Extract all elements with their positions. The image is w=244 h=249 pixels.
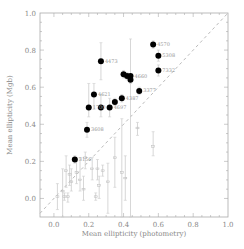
y-axis-title: Mean ellipticity (Mgb) <box>6 75 14 155</box>
y-tick-label: 0.0 <box>25 195 36 203</box>
data-point <box>72 157 78 163</box>
x-tick-label: 0.0 <box>48 221 59 229</box>
y-tick-label: 1.0 <box>25 10 36 18</box>
y-tick-label: 0.4 <box>25 121 37 129</box>
axis-ticks <box>40 13 228 217</box>
point-label: 4697 <box>114 104 127 110</box>
data-point <box>84 127 90 133</box>
x-tick-label: 0.2 <box>83 221 94 229</box>
x-tick-label: 0.8 <box>188 221 199 229</box>
point-label: 7332 <box>162 67 175 73</box>
point-label: 4473 <box>105 58 118 64</box>
one-to-one-reference-line <box>40 13 228 213</box>
point-labels: 4473457053087332337746604621170046974387… <box>79 41 175 162</box>
x-tick-label: 0.4 <box>118 221 130 229</box>
data-point <box>107 105 113 111</box>
point-label: 3156 <box>79 156 92 162</box>
data-point <box>136 88 142 94</box>
x-tick-label: 0.6 <box>153 221 165 229</box>
data-point <box>155 53 161 59</box>
x-axis-title: Mean ellipticity (photometry) <box>82 230 187 238</box>
point-label: 4621 <box>98 91 111 97</box>
data-point <box>128 77 134 83</box>
point-label: 4570 <box>157 41 170 47</box>
point-label: 4660 <box>135 73 148 79</box>
x-tick-label: 1.0 <box>222 221 233 229</box>
data-point <box>119 95 125 101</box>
y-tick-labels: 0.00.20.40.60.81.0 <box>25 10 37 203</box>
data-point <box>98 58 104 64</box>
y-tick-label: 0.6 <box>25 84 37 92</box>
scatter-chart: 0.00.20.40.60.81.0 0.00.20.40.60.81.0 44… <box>0 0 244 249</box>
plot-frame <box>40 13 228 217</box>
point-label: 4387 <box>126 95 139 101</box>
data-point <box>86 105 92 111</box>
y-tick-label: 0.2 <box>25 158 36 166</box>
data-point <box>150 42 156 48</box>
data-point <box>91 92 97 98</box>
error-bars <box>56 39 160 217</box>
x-tick-labels: 0.00.20.40.60.81.0 <box>48 221 233 229</box>
point-label: 3377 <box>143 87 156 93</box>
y-tick-label: 0.8 <box>25 47 36 55</box>
data-point <box>155 67 161 73</box>
point-label: 3608 <box>91 126 104 132</box>
point-label: 1700 <box>93 104 106 110</box>
point-label: 5308 <box>162 52 175 58</box>
